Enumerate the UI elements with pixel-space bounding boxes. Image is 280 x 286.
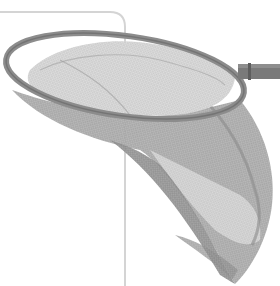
net-handle <box>238 63 280 80</box>
net-photo <box>0 0 280 286</box>
